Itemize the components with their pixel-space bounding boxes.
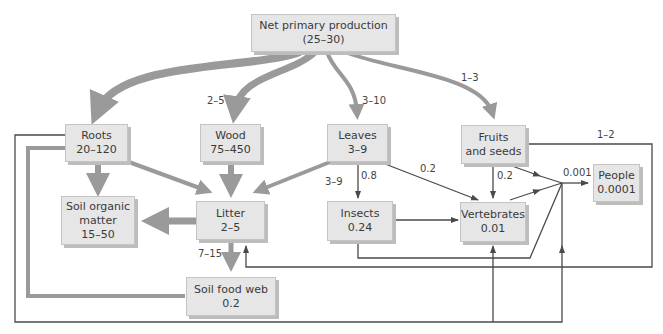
node-value: 3–9	[328, 143, 387, 157]
label-to-people: 0.001	[563, 167, 592, 178]
node-people: People 0.0001	[593, 164, 640, 202]
node-title: Litter	[197, 207, 264, 221]
node-title: Soil food web	[187, 283, 275, 297]
node-title: Wood	[201, 129, 260, 143]
node-leaves: Leaves 3–9	[327, 124, 388, 162]
node-litter: Litter 2–5	[196, 201, 265, 240]
node-wood: Wood 75–450	[200, 124, 261, 162]
node-title: People	[594, 169, 639, 183]
node-value: (25–30)	[252, 33, 395, 47]
label-fruits-vertebrates: 0.2	[497, 170, 513, 181]
node-title: Leaves	[328, 129, 387, 143]
node-value: 0.01	[461, 222, 525, 236]
label-wood-flow: 2–5	[207, 95, 225, 106]
node-net-primary-production: Net primary production (25–30)	[251, 14, 396, 52]
node-title-2: matter	[62, 214, 134, 228]
node-soil-food-web: Soil food web 0.2	[186, 277, 276, 316]
node-value: 0.0001	[594, 183, 639, 197]
node-value: 20–120	[66, 143, 127, 157]
node-title-2: and seeds	[462, 145, 525, 159]
node-value: 0.24	[328, 221, 392, 235]
food-web-diagram: Net primary production (25–30) Roots 20–…	[0, 0, 663, 334]
node-title: Soil organic	[62, 200, 134, 214]
node-value: 75–450	[201, 143, 260, 157]
node-fruits-and-seeds: Fruits and seeds	[461, 125, 526, 164]
node-roots: Roots 20–120	[65, 124, 128, 162]
node-insects: Insects 0.24	[327, 201, 393, 241]
label-leaves-flow: 3–10	[362, 95, 386, 106]
node-value: 15–50	[62, 228, 134, 242]
label-leaves-insects: 0.8	[361, 170, 377, 181]
node-title: Fruits	[462, 131, 525, 145]
label-litter-sfw: 7–15	[198, 248, 222, 259]
node-title: Net primary production	[252, 19, 395, 33]
node-title: Roots	[66, 129, 127, 143]
label-fruits-people: 1–2	[597, 129, 615, 140]
node-value: 2–5	[197, 221, 264, 235]
node-title: Vertebrates	[461, 208, 525, 222]
label-leaves-litter: 3–9	[325, 176, 343, 187]
node-title: Insects	[328, 207, 392, 221]
node-vertebrates: Vertebrates 0.01	[460, 202, 526, 242]
node-soil-organic-matter: Soil organic matter 15–50	[61, 196, 135, 245]
node-value: 0.2	[187, 297, 275, 311]
label-leaves-vertebrates: 0.2	[420, 163, 436, 174]
label-fruits-flow: 1–3	[461, 72, 479, 83]
